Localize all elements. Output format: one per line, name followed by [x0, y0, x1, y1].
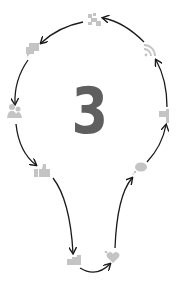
- heart-icon: [105, 251, 120, 263]
- cycle-diagram: 3: [0, 0, 179, 289]
- arrow-thumbs-to-group: [53, 178, 73, 253]
- group-handshake-icon: [67, 255, 81, 265]
- speech-bubble-icon: [132, 163, 147, 175]
- arrow-group-to-heart: [80, 264, 110, 272]
- arrow-puzzle-to-chat: [41, 22, 83, 43]
- chat-bubbles-icon: [26, 43, 39, 57]
- arrow-chat-to-people: [15, 60, 28, 104]
- center-number: 3: [64, 80, 115, 142]
- arrow-speech-to-flag: [147, 125, 166, 162]
- rss-icon: [144, 45, 155, 56]
- arrow-people-to-thumbs: [16, 124, 36, 165]
- people-icon: [7, 104, 22, 118]
- arrow-flag-to-rss: [156, 60, 167, 107]
- arrow-rss-to-puzzle: [103, 18, 144, 42]
- flag-icon: [159, 109, 169, 123]
- arrow-heart-to-speech: [115, 178, 132, 248]
- thumbs-up-icon: [34, 164, 50, 177]
- puzzle-plus-icon: [88, 13, 101, 26]
